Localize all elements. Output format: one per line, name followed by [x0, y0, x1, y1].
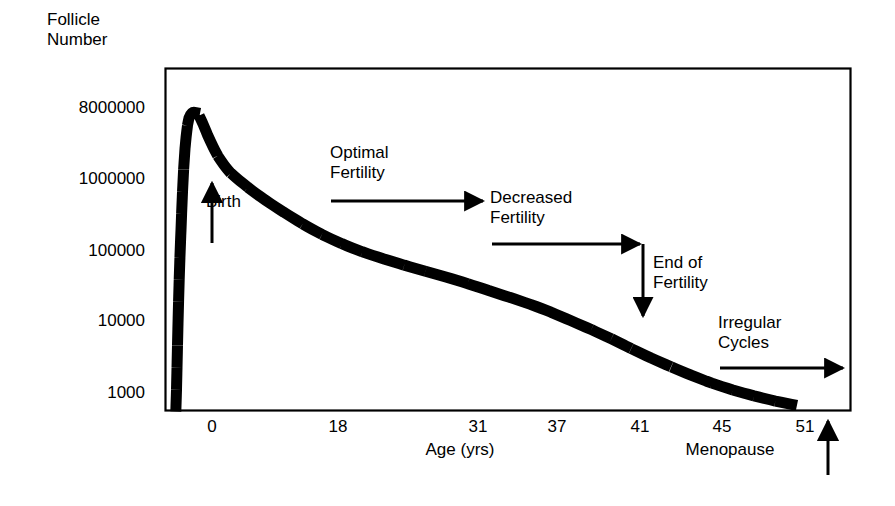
- follicle-number-curve: [176, 112, 800, 406]
- follicle-number-chart: FollicleNumber 8000000 1000000 100000 10…: [0, 0, 895, 506]
- plot-frame: [166, 69, 851, 411]
- plot-svg: [0, 0, 895, 506]
